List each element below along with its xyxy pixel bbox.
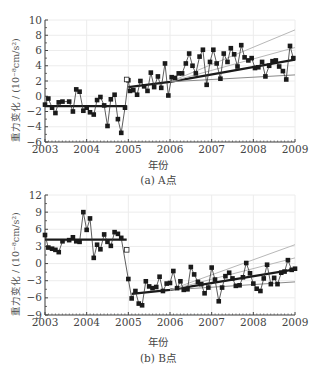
svg-text:6: 6	[35, 44, 42, 56]
svg-text:8: 8	[35, 29, 42, 41]
svg-text:2009: 2009	[282, 143, 309, 155]
svg-text:6: 6	[35, 223, 42, 235]
y-tick-labels: −6−4−20246810	[27, 14, 43, 148]
x-tick-labels: 2003200420052006200720082009	[32, 143, 309, 155]
series-reference-point-open-marker-	[124, 77, 129, 82]
caption-b: (b) B点	[0, 350, 316, 365]
plot-a: −6−4−20246810200320042005200620072008200…	[0, 0, 316, 160]
svg-text:3: 3	[35, 240, 42, 252]
svg-text:12: 12	[29, 189, 42, 201]
x-axis-label-b: 年份	[0, 334, 316, 349]
y-tick-labels: −9−6−3036912	[27, 189, 43, 321]
svg-text:2006: 2006	[157, 143, 184, 155]
svg-text:2004: 2004	[73, 143, 100, 155]
svg-text:2007: 2007	[198, 316, 225, 328]
series-reference-point-open-marker-	[124, 248, 129, 253]
svg-text:−6: −6	[27, 291, 43, 303]
svg-text:0: 0	[35, 90, 42, 102]
svg-text:10: 10	[29, 14, 42, 26]
y-axis-label-b: 重力变化 / (10⁻⁸cm/s²)	[8, 191, 22, 316]
svg-text:−2: −2	[27, 105, 42, 117]
svg-text:2008: 2008	[240, 316, 267, 328]
svg-text:−4: −4	[27, 120, 43, 132]
svg-text:2008: 2008	[240, 143, 267, 155]
svg-text:9: 9	[35, 206, 42, 218]
svg-text:2004: 2004	[73, 316, 100, 328]
svg-text:2007: 2007	[198, 143, 225, 155]
x-axis-label-a: 年份	[0, 157, 316, 172]
svg-text:−3: −3	[27, 274, 42, 286]
svg-text:2006: 2006	[157, 316, 184, 328]
svg-text:2009: 2009	[282, 316, 309, 328]
y-axis-label-a: 重力变化 / (10⁻⁸cm/s²)	[8, 17, 22, 142]
x-tick-labels: 2003200420052006200720082009	[32, 316, 309, 328]
svg-text:2005: 2005	[115, 143, 142, 155]
figure: −6−4−20246810200320042005200620072008200…	[0, 0, 316, 368]
svg-text:0: 0	[35, 257, 42, 269]
series-monthly-gravity-change	[43, 43, 296, 135]
svg-text:2005: 2005	[115, 316, 142, 328]
svg-text:2003: 2003	[32, 316, 59, 328]
plot-b: −9−6−30369122003200420052006200720082009	[0, 184, 316, 334]
svg-text:2003: 2003	[32, 143, 59, 155]
svg-text:2: 2	[35, 75, 42, 87]
svg-text:4: 4	[35, 59, 42, 71]
